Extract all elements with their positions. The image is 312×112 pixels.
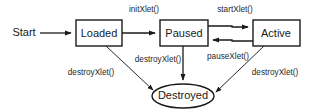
edge-label-destroy-xlet-mid: destroyXlet() bbox=[135, 55, 182, 64]
start-label: Start bbox=[12, 26, 35, 38]
edge-label-destroy-xlet-right: destroyXlet() bbox=[252, 68, 299, 77]
state-diagram-canvas: Loaded Paused Active Destroyed Start ini… bbox=[0, 0, 312, 112]
state-node-loaded-label: Loaded bbox=[81, 27, 118, 39]
edge-label-start-xlet: startXlet() bbox=[217, 5, 253, 14]
state-node-loaded[interactable]: Loaded bbox=[76, 20, 122, 46]
edge-paused-to-active bbox=[208, 26, 248, 27]
edge-label-init-xlet: initXlet() bbox=[129, 5, 159, 14]
state-node-paused-label: Paused bbox=[165, 27, 202, 39]
state-node-paused[interactable]: Paused bbox=[160, 20, 208, 46]
state-node-destroyed-label: Destroyed bbox=[158, 89, 208, 101]
edge-label-pause-xlet: pauseXlet() bbox=[207, 52, 249, 61]
state-node-destroyed[interactable]: Destroyed bbox=[152, 84, 214, 108]
state-node-active-label: Active bbox=[261, 27, 291, 39]
state-node-active[interactable]: Active bbox=[253, 20, 300, 46]
edge-label-destroy-xlet-left: destroyXlet() bbox=[68, 68, 115, 77]
edge-active-to-paused bbox=[213, 40, 253, 41]
state-diagram-svg: Loaded Paused Active Destroyed Start ini… bbox=[0, 0, 312, 112]
